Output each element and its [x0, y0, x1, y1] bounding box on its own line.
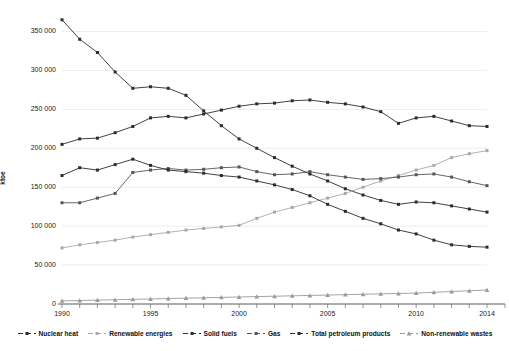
data-point	[114, 131, 117, 134]
x-tick-label: 1990	[42, 310, 82, 317]
data-point	[468, 152, 471, 155]
data-point	[273, 211, 276, 214]
y-tick-label: 0	[4, 300, 56, 308]
data-point	[78, 38, 81, 41]
legend-marker-icon	[87, 329, 107, 338]
data-point	[149, 116, 152, 119]
series-5	[60, 288, 490, 303]
data-point	[255, 179, 258, 182]
legend-item[interactable]: Renewable energies	[87, 329, 172, 338]
data-point	[326, 173, 329, 176]
data-point	[184, 229, 187, 232]
data-point	[96, 137, 99, 140]
data-point	[326, 203, 329, 206]
data-point	[432, 239, 435, 242]
y-tick-label: 200 000	[4, 144, 56, 152]
data-point	[362, 193, 365, 196]
data-point	[362, 178, 365, 181]
data-point	[273, 102, 276, 105]
data-point	[167, 231, 170, 234]
data-point	[238, 176, 241, 179]
data-point	[415, 173, 418, 176]
data-point	[167, 87, 170, 90]
data-point	[255, 147, 258, 150]
data-point	[131, 125, 134, 128]
legend-item[interactable]: Non-renewable wastes	[399, 329, 492, 338]
data-point	[415, 200, 418, 203]
data-point	[468, 245, 471, 248]
legend-marker-icon	[399, 329, 419, 338]
data-point	[291, 165, 294, 168]
data-point	[61, 174, 64, 177]
data-point	[379, 199, 382, 202]
data-point	[415, 169, 418, 172]
data-point	[486, 246, 489, 249]
data-point	[344, 187, 347, 190]
legend-item[interactable]: Total petroleum products	[289, 329, 390, 338]
data-point	[379, 177, 382, 180]
data-point	[344, 102, 347, 105]
legend-label: Gas	[268, 330, 280, 337]
data-point	[149, 169, 152, 172]
legend-label: Nuclear heat	[39, 330, 79, 337]
legend-item[interactable]: Solid fuels	[182, 329, 237, 338]
data-point	[486, 211, 489, 214]
series-line	[62, 100, 487, 144]
data-point	[450, 243, 453, 246]
data-point	[78, 137, 81, 140]
data-point	[468, 208, 471, 211]
series-line	[62, 159, 487, 247]
data-point	[220, 225, 223, 228]
data-point	[184, 94, 187, 97]
data-point	[468, 180, 471, 183]
data-point	[61, 201, 64, 204]
data-point	[96, 241, 99, 244]
data-point	[96, 197, 99, 200]
data-point	[344, 176, 347, 179]
legend-label: Renewable energies	[109, 330, 172, 337]
data-point	[202, 227, 205, 230]
data-point	[450, 156, 453, 159]
x-tick-label: 2000	[219, 310, 259, 317]
data-point	[432, 115, 435, 118]
x-tick-label: 2005	[308, 310, 348, 317]
data-point	[397, 203, 400, 206]
y-tick-label: 50 000	[4, 261, 56, 269]
data-point	[131, 171, 134, 174]
series-1	[61, 149, 489, 249]
data-point	[149, 85, 152, 88]
data-point	[131, 158, 134, 161]
data-point	[202, 172, 205, 175]
data-point	[78, 201, 81, 204]
legend-item[interactable]: Gas	[246, 329, 280, 338]
data-point	[379, 222, 382, 225]
data-point	[184, 116, 187, 119]
data-point	[273, 156, 276, 159]
data-point	[220, 166, 223, 169]
data-point	[344, 210, 347, 213]
data-point	[432, 201, 435, 204]
data-point	[432, 164, 435, 167]
data-point	[220, 174, 223, 177]
data-point	[344, 192, 347, 195]
data-point	[220, 124, 223, 127]
series-4	[61, 158, 489, 249]
x-tick-label: 1995	[131, 310, 171, 317]
data-point	[291, 188, 294, 191]
data-point	[114, 239, 117, 242]
data-point	[486, 125, 489, 128]
data-point	[167, 115, 170, 118]
series-2	[61, 98, 489, 145]
data-point	[96, 51, 99, 54]
legend-item[interactable]: Nuclear heat	[17, 329, 79, 338]
data-point	[202, 168, 205, 171]
data-point	[486, 149, 489, 152]
legend-label: Solid fuels	[204, 330, 237, 337]
y-axis-ticks: 050 000100 000150 000200 000250 000300 0…	[0, 0, 56, 351]
data-point	[291, 99, 294, 102]
y-tick-label: 150 000	[4, 183, 56, 191]
data-point	[450, 204, 453, 207]
data-point	[379, 110, 382, 113]
data-point	[61, 246, 64, 249]
data-point	[255, 217, 258, 220]
